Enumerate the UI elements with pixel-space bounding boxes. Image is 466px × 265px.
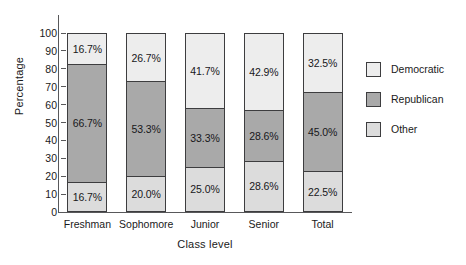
y-axis-tick-mark [61,176,66,177]
legend-item-other[interactable]: Other [366,118,466,140]
y-axis-tick-mark [61,68,66,69]
y-axis-tick: 90 [22,45,66,57]
x-axis-category-label: Freshman [64,218,111,230]
y-axis-tick-label: 50 [27,117,57,129]
legend-item-democratic[interactable]: Democratic [366,58,466,80]
y-axis-tick: 50 [22,117,66,129]
legend-item-label: Democratic [391,63,444,75]
y-axis-tick: 70 [22,81,66,93]
y-axis-tick-label: 80 [27,63,57,75]
y-axis-tick-mark [61,33,66,34]
bar-segment-republican[interactable]: 28.6% [245,110,283,161]
bar-group: 16.7%66.7%16.7%Freshman [67,33,107,212]
stacked-bar[interactable]: 42.9%28.6%28.6% [244,33,284,212]
bar-segment-value-label: 53.3% [132,123,161,135]
bar-segment-democratic[interactable]: 41.7% [186,34,224,108]
bar-segment-value-label: 20.0% [132,188,161,200]
bar-segment-value-label: 32.5% [308,57,337,69]
bar-segment-democratic[interactable]: 32.5% [304,34,342,92]
bar-segment-other[interactable]: 20.0% [127,176,165,211]
bar-segment-value-label: 16.7% [73,43,102,55]
y-axis-tick-mark [61,158,66,159]
legend-item-label: Other [391,123,417,135]
y-axis-tick-label: 70 [27,81,57,93]
bar-segment-democratic[interactable]: 26.7% [127,34,165,81]
bar-segment-value-label: 33.3% [190,132,219,144]
stacked-bar[interactable]: 16.7%66.7%16.7% [67,33,107,212]
bar-segment-other[interactable]: 28.6% [245,161,283,212]
x-axis-title: Class level [58,238,352,250]
bar-segment-value-label: 28.6% [249,180,278,192]
bar-group: 42.9%28.6%28.6%Senior [244,33,284,212]
bar-segment-other[interactable]: 25.0% [186,167,224,211]
bar-segment-value-label: 42.9% [249,66,278,78]
bar-segment-value-label: 25.0% [190,183,219,195]
bar-segment-democratic[interactable]: 16.7% [68,34,106,64]
y-axis-tick-mark [61,104,66,105]
bar-segment-other[interactable]: 16.7% [68,182,106,212]
y-axis-tick-mark [61,50,66,51]
legend-item-label: Republican [391,93,444,105]
y-axis-tick-mark [61,122,66,123]
y-axis-tick-label: 20 [27,170,57,182]
y-axis-tick-label: 40 [27,134,57,146]
bar-segment-value-label: 66.7% [73,117,102,129]
y-axis-tick-mark [61,212,66,213]
y-axis-tick-label: 60 [27,99,57,111]
y-axis-tick: 100 [22,27,66,39]
y-axis-tick-mark [61,86,66,87]
y-axis-tick: 80 [22,63,66,75]
bar-group: 41.7%33.3%25.0%Junior [185,33,225,212]
x-axis-category-label: Senior [249,218,279,230]
y-axis-tick: 60 [22,99,66,111]
x-axis-category-label: Sophomore [119,218,173,230]
x-axis-category-label: Total [312,218,334,230]
y-axis-tick-label: 10 [27,188,57,200]
y-axis-tick-mark [61,194,66,195]
plot-area: 0102030405060708090100 16.7%66.7%16.7%Fr… [58,33,352,212]
bar-segment-republican[interactable]: 66.7% [68,64,106,182]
y-axis-tick-label: 100 [27,27,57,39]
bar-segment-value-label: 26.7% [132,52,161,64]
stacked-bar-chart: Percentage 0102030405060708090100 16.7%6… [0,0,466,265]
bar-segment-republican[interactable]: 53.3% [127,81,165,175]
bar-segment-republican[interactable]: 45.0% [304,92,342,172]
bar-segment-democratic[interactable]: 42.9% [245,34,283,110]
y-axis-tick-label: 0 [27,206,57,218]
y-axis-tick-label: 90 [27,45,57,57]
stacked-bar[interactable]: 26.7%53.3%20.0% [126,33,166,212]
legend-swatch-icon [366,92,381,107]
legend: DemocraticRepublicanOther [366,58,466,148]
y-axis-tick: 10 [22,188,66,200]
bar-segment-value-label: 28.6% [249,130,278,142]
stacked-bar[interactable]: 41.7%33.3%25.0% [185,33,225,212]
x-axis-category-label: Junior [191,218,220,230]
x-axis-line [58,212,352,213]
legend-swatch-icon [366,122,381,137]
bar-segment-value-label: 16.7% [73,191,102,203]
y-axis-tick: 0 [22,206,66,218]
bar-segment-republican[interactable]: 33.3% [186,108,224,167]
bar-segment-value-label: 45.0% [308,126,337,138]
y-axis-tick: 20 [22,170,66,182]
legend-item-republican[interactable]: Republican [366,88,466,110]
legend-swatch-icon [366,62,381,77]
bar-segment-value-label: 41.7% [190,65,219,77]
y-axis-tick-mark [61,140,66,141]
bar-segment-other[interactable]: 22.5% [304,171,342,211]
y-axis-tick: 40 [22,134,66,146]
bar-group: 26.7%53.3%20.0%Sophomore [126,33,166,212]
y-axis-tick-label: 30 [27,152,57,164]
bar-segment-value-label: 22.5% [308,186,337,198]
y-axis-tick: 30 [22,152,66,164]
bar-group: 32.5%45.0%22.5%Total [303,33,343,212]
stacked-bar[interactable]: 32.5%45.0%22.5% [303,33,343,212]
